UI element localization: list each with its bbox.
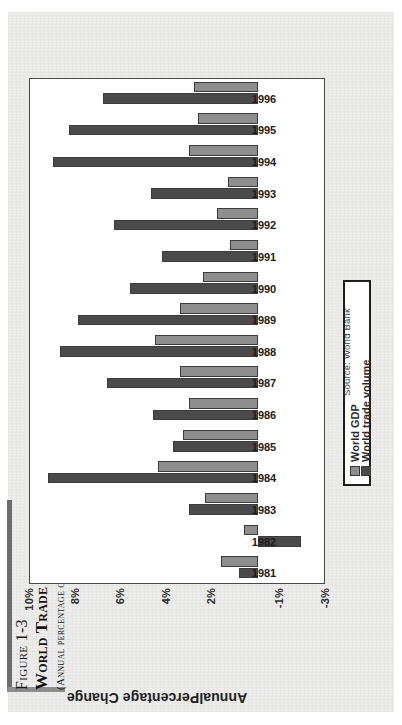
bar-gdp-1987	[180, 366, 257, 377]
bar-gdp-1993	[228, 177, 258, 188]
bar-group: 1989	[30, 298, 324, 330]
bar-group: 1993	[30, 172, 324, 204]
axis-tick-2pct: 2%	[205, 588, 217, 618]
bar-group: 1996	[30, 77, 324, 109]
category-label-1989: 1989	[251, 314, 275, 326]
bar-trade-1990	[130, 283, 258, 294]
bar-group: 1985	[30, 425, 324, 457]
bar-group: 1984	[30, 457, 324, 489]
bar-trade-1987	[107, 378, 257, 389]
bar-gdp-1983	[205, 493, 257, 504]
bar-group: 1987	[30, 362, 324, 394]
category-label-1995: 1995	[251, 124, 275, 136]
source-note: Source: World Bank	[341, 308, 352, 396]
bar-gdp-1994	[189, 145, 257, 156]
bar-gdp-1991	[230, 240, 257, 251]
bar-group: 1982	[30, 520, 324, 552]
legend-swatch-icon	[361, 466, 371, 476]
bar-gdp-1982	[244, 525, 258, 536]
bar-gdp-1990	[203, 272, 258, 283]
bar-group: 1994	[30, 140, 324, 172]
category-label-1982: 1982	[251, 536, 275, 548]
bar-trade-1992	[114, 220, 257, 231]
bar-trade-1995	[69, 125, 258, 136]
bar-group: 1988	[30, 330, 324, 362]
bar-gdp-1981	[221, 556, 257, 567]
bar-gdp-1988	[155, 335, 257, 346]
category-label-1990: 1990	[251, 283, 275, 295]
bar-gdp-1986	[189, 398, 257, 409]
category-label-1987: 1987	[251, 377, 275, 389]
bar-trade-1996	[103, 93, 258, 104]
bar-group: 1981	[30, 551, 324, 583]
axis-tick-8pct: 8%	[69, 588, 81, 618]
legend-label: World trade volume	[360, 360, 372, 462]
category-label-1988: 1988	[251, 346, 275, 358]
bar-group: 1991	[30, 235, 324, 267]
axis-tick-neg3pct: -3%	[319, 588, 331, 618]
bar-trade-1985	[173, 441, 257, 452]
bar-gdp-1996	[194, 82, 258, 93]
category-label-1991: 1991	[251, 251, 275, 263]
bar-group: 1990	[30, 267, 324, 299]
category-label-1985: 1985	[251, 441, 275, 453]
bar-trade-1986	[153, 410, 258, 421]
bar-trade-1984	[48, 473, 257, 484]
bar-trade-1991	[162, 251, 258, 262]
bar-trade-1994	[53, 157, 258, 168]
category-label-1984: 1984	[251, 472, 275, 484]
category-label-1986: 1986	[251, 409, 275, 421]
bar-gdp-1984	[158, 461, 258, 472]
bar-trade-1993	[151, 188, 258, 199]
category-label-1996: 1996	[251, 93, 275, 105]
value-axis-title: AnnualPercentage Change	[67, 690, 247, 706]
bar-group: 1986	[30, 393, 324, 425]
bar-trade-1988	[60, 346, 258, 357]
category-label-1981: 1981	[251, 567, 275, 579]
bar-gdp-1985	[183, 430, 258, 441]
axis-tick-4pct: 4%	[160, 588, 172, 618]
category-label-1992: 1992	[251, 219, 275, 231]
plot-area: 1981198219831984198519861987198819891990…	[29, 78, 325, 584]
bar-group: 1983	[30, 488, 324, 520]
legend-swatch-icon	[350, 466, 360, 476]
title-rule-top	[7, 500, 12, 692]
category-label-1994: 1994	[251, 156, 275, 168]
bar-group: 1995	[30, 109, 324, 141]
legend-entry-world-trade-volume: World trade volume	[360, 360, 372, 476]
category-label-1983: 1983	[251, 504, 275, 516]
axis-tick-neg1pct: -1%	[273, 588, 285, 618]
category-label-1993: 1993	[251, 188, 275, 200]
bar-trade-1989	[78, 315, 258, 326]
axis-tick-6pct: 6%	[114, 588, 126, 618]
bar-group: 1992	[30, 204, 324, 236]
bar-gdp-1995	[198, 113, 257, 124]
bar-trade-1983	[189, 504, 257, 515]
page-root: Figure 1-3 World Trade Outpaces World Ou…	[0, 0, 402, 725]
bar-gdp-1992	[217, 208, 258, 219]
figure-stage: Figure 1-3 World Trade Outpaces World Ou…	[7, 6, 379, 696]
bar-gdp-1989	[180, 303, 257, 314]
